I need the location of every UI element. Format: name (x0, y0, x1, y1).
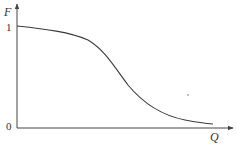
y-tick-label-zero: 0 (6, 120, 12, 132)
stray-mark (187, 94, 189, 96)
x-axis-label: Q (210, 130, 219, 144)
f-q-curve (17, 26, 213, 124)
chart: F 1 0 Q (0, 0, 237, 146)
y-axis-label: F (3, 5, 12, 19)
y-tick-label-one: 1 (6, 21, 12, 33)
